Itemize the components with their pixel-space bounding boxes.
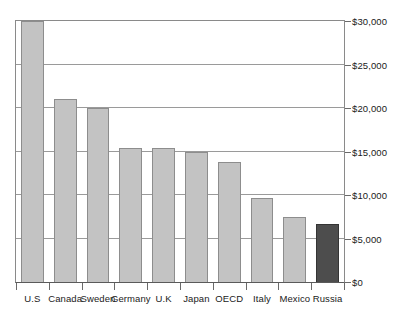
bar-oecd[interactable] [218, 162, 241, 282]
bar-germany[interactable] [119, 148, 142, 282]
x-tick-mark [344, 283, 345, 290]
x-tick-label-mexico: Mexico [279, 293, 310, 304]
x-tick-mark [16, 283, 17, 290]
bar-sweden[interactable] [87, 108, 110, 282]
y-tick-mark [345, 21, 351, 22]
x-tick-label-japan: Japan [183, 293, 209, 304]
bar-chart: $0$5,000$10,000$15,000$20,000$25,000$30,… [0, 0, 410, 316]
x-tick-label-germany: Germany [111, 293, 151, 304]
y-tick-label: $15,000 [352, 146, 387, 157]
x-tick-mark [278, 283, 279, 290]
y-tick-mark [345, 282, 351, 283]
y-tick-label: $25,000 [352, 59, 387, 70]
x-tick-label-italy: Italy [253, 293, 271, 304]
bar-canada[interactable] [54, 99, 77, 282]
y-tick-label: $0 [352, 277, 363, 288]
x-tick-mark [147, 283, 148, 290]
x-tick-label-u-s: U.S [24, 293, 40, 304]
x-tick-mark [311, 283, 312, 290]
x-tick-label-u-k: U.K [156, 293, 172, 304]
x-tick-label-russia: Russia [313, 293, 343, 304]
bar-russia[interactable] [316, 224, 339, 282]
y-tick-mark [345, 152, 351, 153]
x-tick-label-oecd: OECD [215, 293, 243, 304]
y-tick-label: $10,000 [352, 190, 387, 201]
bar-u-k[interactable] [152, 148, 175, 282]
y-tick-mark [345, 239, 351, 240]
y-tick-mark [345, 195, 351, 196]
bar-u-s[interactable] [21, 21, 44, 282]
x-tick-mark [82, 283, 83, 290]
x-tick-mark [180, 283, 181, 290]
bar-mexico[interactable] [283, 217, 306, 282]
x-tick-mark [213, 283, 214, 290]
y-tick-mark [345, 108, 351, 109]
bar-italy[interactable] [251, 198, 274, 282]
x-tick-mark [114, 283, 115, 290]
x-tick-label-canada: Canada [48, 293, 82, 304]
bars [16, 21, 344, 282]
bar-japan[interactable] [185, 152, 208, 283]
y-tick-label: $5,000 [352, 233, 382, 244]
y-tick-label: $30,000 [352, 16, 387, 27]
x-tick-mark [246, 283, 247, 290]
plot-area [15, 20, 345, 283]
y-tick-label: $20,000 [352, 103, 387, 114]
y-tick-mark [345, 65, 351, 66]
x-tick-mark [49, 283, 50, 290]
